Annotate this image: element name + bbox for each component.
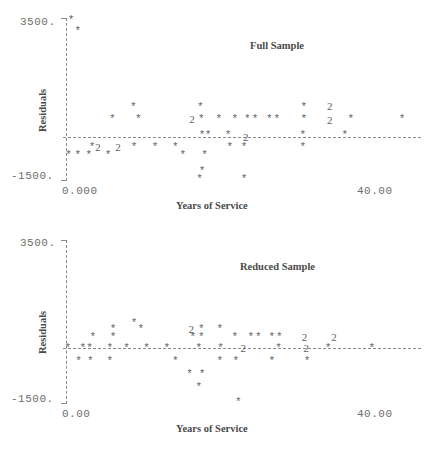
x-axis-title: Years of Service xyxy=(176,200,248,211)
data-point-marker: * xyxy=(64,343,71,353)
y-axis-bottom-tick xyxy=(61,403,67,404)
data-point-marker: * xyxy=(300,142,307,152)
data-point-marker: * xyxy=(74,26,81,36)
data-point-marker: * xyxy=(152,142,159,152)
data-point-overplot: 2 xyxy=(327,101,333,111)
y-axis-title: Residuals xyxy=(37,89,48,132)
x-tick-label-max: 40.00 xyxy=(357,408,393,420)
data-point-marker: * xyxy=(74,150,81,160)
data-point-marker: * xyxy=(252,114,259,124)
data-point-marker: * xyxy=(199,369,206,379)
data-point-marker: * xyxy=(135,114,142,124)
data-point-marker: * xyxy=(347,114,354,124)
data-point-marker: * xyxy=(266,114,273,124)
data-point-marker: * xyxy=(105,150,112,160)
data-point-marker: * xyxy=(399,114,406,124)
data-point-marker: * xyxy=(197,102,204,112)
data-point-marker: * xyxy=(110,332,117,342)
data-point-marker: * xyxy=(196,174,203,184)
full-sample-plot-area: 3500. -1500. 0.000 40.00 Residuals Years… xyxy=(0,0,427,225)
data-point-overplot: 2 xyxy=(115,142,121,152)
data-point-overplot: 2 xyxy=(240,343,246,353)
y-axis-top-tick xyxy=(61,240,67,241)
data-point-marker: * xyxy=(137,324,144,334)
data-point-marker: * xyxy=(65,150,72,160)
data-point-marker: * xyxy=(244,114,251,124)
data-point-marker: * xyxy=(123,343,130,353)
data-point-overplot: 2 xyxy=(327,115,333,125)
data-point-marker: * xyxy=(131,142,138,152)
data-point-marker: * xyxy=(268,356,275,366)
data-point-marker: * xyxy=(255,332,262,342)
data-point-overplot: 2 xyxy=(331,332,337,342)
data-point-marker: * xyxy=(226,142,233,152)
data-point-marker: * xyxy=(143,343,150,353)
y-tick-label-min: -1500. xyxy=(11,393,54,405)
data-point-marker: * xyxy=(325,343,332,353)
data-point-marker: * xyxy=(304,356,311,366)
data-point-marker: * xyxy=(217,343,224,353)
data-point-overplot: 2 xyxy=(303,343,309,353)
data-point-marker: * xyxy=(90,332,97,342)
data-point-marker: * xyxy=(186,369,193,379)
x-tick-label-max: 40.00 xyxy=(357,185,393,197)
data-point-marker: * xyxy=(231,114,238,124)
y-axis-top-tick xyxy=(61,18,67,19)
data-point-overplot: 2 xyxy=(189,114,195,124)
panel-title-full-sample: Full Sample xyxy=(250,40,304,51)
data-point-marker: * xyxy=(109,114,116,124)
reduced-sample-plot-area: 3500. -1500. 0.00 40.00 Residuals Years … xyxy=(0,226,427,451)
data-point-marker: * xyxy=(201,150,208,160)
y-axis-title: Residuals xyxy=(37,311,48,354)
data-point-marker: * xyxy=(368,343,375,353)
y-axis-line xyxy=(66,240,67,404)
data-point-marker: * xyxy=(195,382,202,392)
data-point-marker: * xyxy=(216,114,223,124)
data-point-marker: * xyxy=(300,114,307,124)
x-tick-label-min: 0.000 xyxy=(62,185,98,197)
data-point-marker: * xyxy=(216,356,223,366)
y-tick-label-max: 3500. xyxy=(20,16,56,28)
data-point-marker: * xyxy=(130,102,137,112)
zero-reference-line xyxy=(63,137,421,138)
data-point-marker: * xyxy=(163,343,170,353)
data-point-marker: * xyxy=(205,130,212,140)
y-tick-label-max: 3500. xyxy=(20,237,56,249)
data-point-marker: * xyxy=(198,114,205,124)
data-point-marker: * xyxy=(106,356,113,366)
y-tick-label-min: -1500. xyxy=(11,170,54,182)
data-point-marker: * xyxy=(247,332,254,342)
data-point-marker: * xyxy=(106,343,113,353)
data-point-marker: * xyxy=(232,356,239,366)
reduced-sample-panel: 3500. -1500. 0.00 40.00 Residuals Years … xyxy=(0,226,427,451)
data-point-overplot: 2 xyxy=(302,332,308,342)
data-point-marker: * xyxy=(85,150,92,160)
data-point-marker: * xyxy=(300,102,307,112)
data-point-marker: * xyxy=(87,356,94,366)
data-point-marker: * xyxy=(216,324,223,334)
data-point-marker: * xyxy=(241,174,248,184)
x-axis-title: Years of Service xyxy=(176,423,248,434)
data-point-overplot: 2 xyxy=(95,142,101,152)
data-point-marker: * xyxy=(231,332,238,342)
data-point-marker: * xyxy=(68,15,75,25)
data-point-marker: * xyxy=(79,343,86,353)
data-point-marker: * xyxy=(172,356,179,366)
data-point-marker: * xyxy=(198,332,205,342)
data-point-marker: * xyxy=(179,150,186,160)
panel-title-reduced-sample: Reduced Sample xyxy=(240,261,315,272)
data-point-marker: * xyxy=(172,142,179,152)
data-point-marker: * xyxy=(273,114,280,124)
data-point-marker: * xyxy=(342,130,349,140)
data-point-marker: * xyxy=(300,130,307,140)
data-point-marker: * xyxy=(225,130,232,140)
data-point-marker: * xyxy=(235,397,242,407)
data-point-marker: * xyxy=(195,343,202,353)
data-point-marker: * xyxy=(241,142,248,152)
full-sample-panel: 3500. -1500. 0.000 40.00 Residuals Years… xyxy=(0,0,427,225)
x-tick-label-min: 0.00 xyxy=(62,408,90,420)
data-point-marker: * xyxy=(131,318,138,328)
data-point-marker: * xyxy=(276,332,283,342)
data-point-marker: * xyxy=(86,343,93,353)
data-point-marker: * xyxy=(275,343,282,353)
